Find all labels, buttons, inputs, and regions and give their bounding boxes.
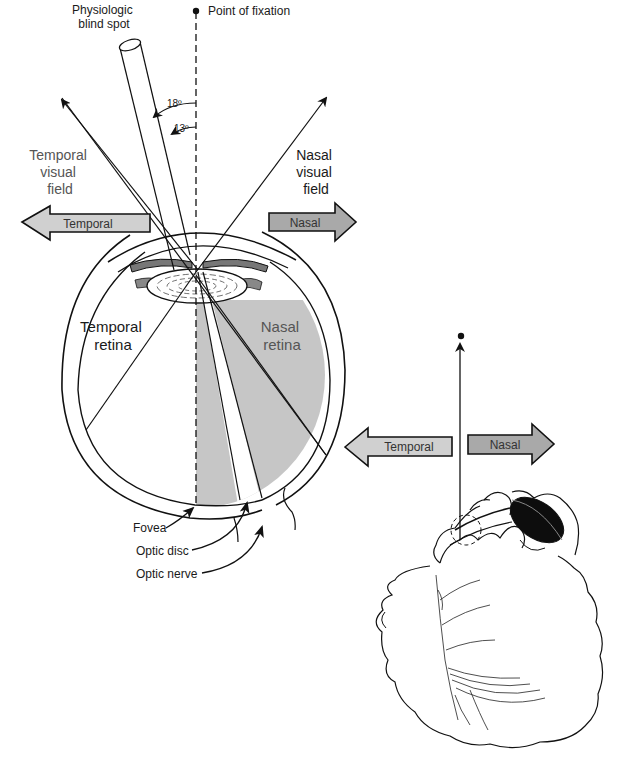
nasal-retina-label: Nasal retina xyxy=(261,318,304,353)
visual-field-diagram: Physiologic blind spot Point of fixation… xyxy=(0,0,628,763)
optic-nerve-left-edge xyxy=(234,518,238,542)
fixation-point-dot xyxy=(193,8,199,14)
nasal-arrow-label: Nasal xyxy=(290,216,321,230)
optic-disc-pointer-arrow xyxy=(192,503,247,550)
temporal-retina-label: Temporal retina xyxy=(80,318,146,353)
fixation-label: Point of fixation xyxy=(208,4,290,18)
fovea-label: Fovea xyxy=(133,521,167,535)
head-outline xyxy=(376,556,602,748)
head-diagram: Temporal Nasal xyxy=(345,333,603,748)
optic-nerve-pointer-arrow xyxy=(202,527,262,573)
head-temporal-arrow-label: Temporal xyxy=(384,440,433,454)
temporal-arrow-label: Temporal xyxy=(63,217,112,231)
head-nasal-arrow-label: Nasal xyxy=(490,438,521,452)
nasal-visual-field-label: Nasal visual field xyxy=(296,147,336,197)
eye-patch-strap xyxy=(455,508,510,530)
eye-diagram: Physiologic blind spot Point of fixation… xyxy=(22,3,356,581)
angle-18-label: 18º xyxy=(167,98,182,109)
blind-spot-label: Physiologic blind spot xyxy=(72,3,136,31)
head-fixation-point-dot xyxy=(458,333,464,339)
temporal-visual-field-label: Temporal visual field xyxy=(29,147,90,197)
optic-disc-label: Optic disc xyxy=(136,544,189,558)
angle-13-label: 13º xyxy=(174,123,189,134)
optic-nerve-label: Optic nerve xyxy=(136,567,198,581)
head-brow xyxy=(440,526,525,563)
